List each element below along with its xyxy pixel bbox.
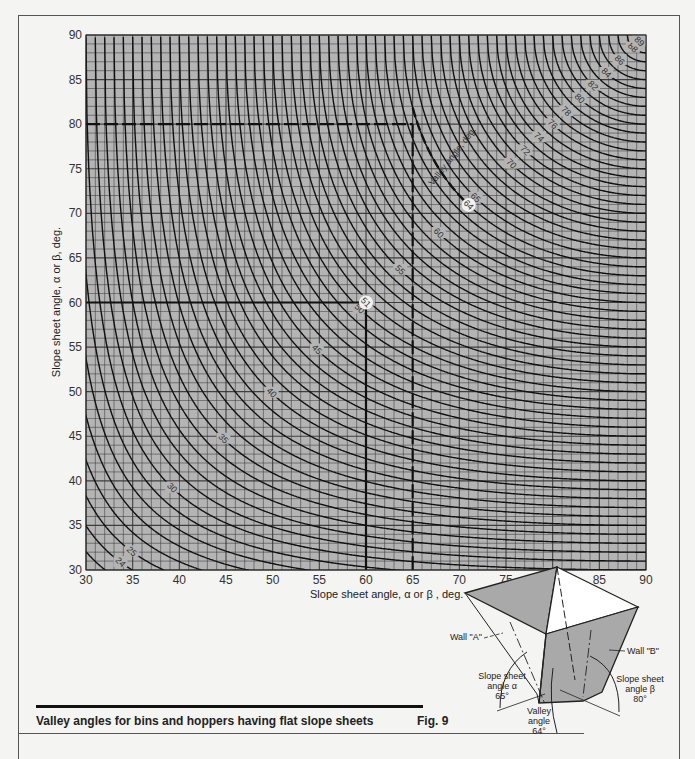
y-tick-label: 85 [69,73,83,87]
y-tick-label: 80 [69,117,83,131]
x-tick-label: 55 [313,573,327,587]
wall-a-label: Wall "A" [450,632,482,642]
x-tick-label: 40 [173,573,187,587]
x-tick-label: 35 [126,573,140,587]
y-tick-label: 40 [69,474,83,488]
figure-number: Fig. 9 [417,714,448,728]
y-tick-label: 30 [69,563,83,577]
beta-label-line: 80° [633,694,647,704]
valley-label-line: Valley [527,706,551,716]
valley-label-line: 64° [532,726,546,736]
alpha-label-line: Slope sheet [478,671,526,681]
alpha-label-line: angle α [487,681,517,691]
y-tick-label: 65 [69,251,83,265]
hopper-diagram: Wall "A"Wall "B"Slope sheetangle α65°Slo… [450,567,664,736]
y-tick-label: 45 [69,429,83,443]
y-tick-label: 60 [69,296,83,310]
x-axis-label: Slope sheet angle, α or β , deg. [310,588,463,600]
y-tick-label: 35 [69,518,83,532]
x-tick-label: 70 [453,573,467,587]
y-tick-label: 70 [69,206,83,220]
x-tick-label: 60 [359,573,373,587]
x-tick-label: 50 [266,573,280,587]
x-tick-label: 65 [406,573,420,587]
y-tick-label: 90 [69,28,83,42]
caption-rule [36,705,423,708]
wall-b-label: Wall "B" [627,646,659,656]
y-tick-label: 75 [69,162,83,176]
y-tick-label: 50 [69,385,83,399]
x-tick-label: 45 [219,573,233,587]
valley-angle-chart: 2425303540455051556064657072747678808284… [0,0,695,759]
y-tick-label: 55 [69,340,83,354]
x-tick-label: 90 [639,573,653,587]
y-axis-label: Slope sheet angle, α or β, deg. [50,227,62,377]
beta-label-line: angle β [625,684,655,694]
beta-label-line: Slope sheet [616,674,664,684]
plot-area: 2425303540455051556064657072747678808284… [21,34,647,632]
alpha-label-line: 65° [495,691,509,701]
figure-caption: Valley angles for bins and hoppers havin… [36,714,373,728]
valley-label-line: angle [528,716,550,726]
hopper-bottom-edge [537,694,539,703]
